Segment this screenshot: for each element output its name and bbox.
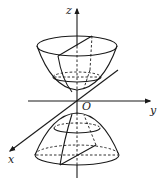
origin-label: O — [82, 100, 91, 113]
x-axis — [10, 70, 118, 151]
paraboloid-diagram: z y x O — [0, 0, 164, 182]
z-axis-label: z — [65, 4, 72, 17]
lower-paraboloid — [35, 113, 119, 165]
x-axis-label: x — [8, 153, 15, 166]
y-axis-label: y — [149, 104, 157, 117]
